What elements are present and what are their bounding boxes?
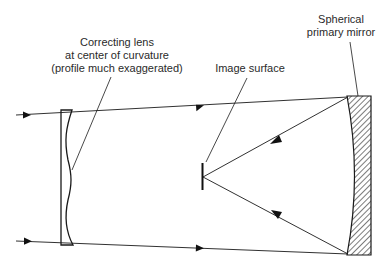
corrector-label-line-3: (profile much exaggerated) <box>51 62 182 74</box>
arrowhead-icon <box>196 105 204 112</box>
corrector-label-line-2: at center of curvature <box>65 49 169 61</box>
mirror-label: Spherical primary mirror <box>307 13 376 38</box>
corrector-plate <box>61 110 73 245</box>
mirror-label-line-2: primary mirror <box>307 26 376 38</box>
corrector-label: Correcting lens at center of curvature (… <box>51 36 182 74</box>
image-surface-leader-line <box>206 78 247 162</box>
mirror-leader-line <box>350 42 358 96</box>
corrector-label-line-1: Correcting lens <box>80 36 154 48</box>
arrowhead-icon <box>24 238 32 245</box>
reflected-lower-ray <box>203 177 348 254</box>
spherical-primary-mirror <box>347 96 371 255</box>
image-surface-label: Image surface <box>215 62 285 74</box>
reflected-upper-ray <box>203 97 348 177</box>
arrowhead-icon <box>23 112 31 119</box>
corrector-leader-line <box>72 77 111 170</box>
arrowhead-icon <box>196 245 204 252</box>
schmidt-camera-diagram: Correcting lens at center of curvature (… <box>0 0 389 269</box>
mirror-label-line-1: Spherical <box>318 13 364 25</box>
